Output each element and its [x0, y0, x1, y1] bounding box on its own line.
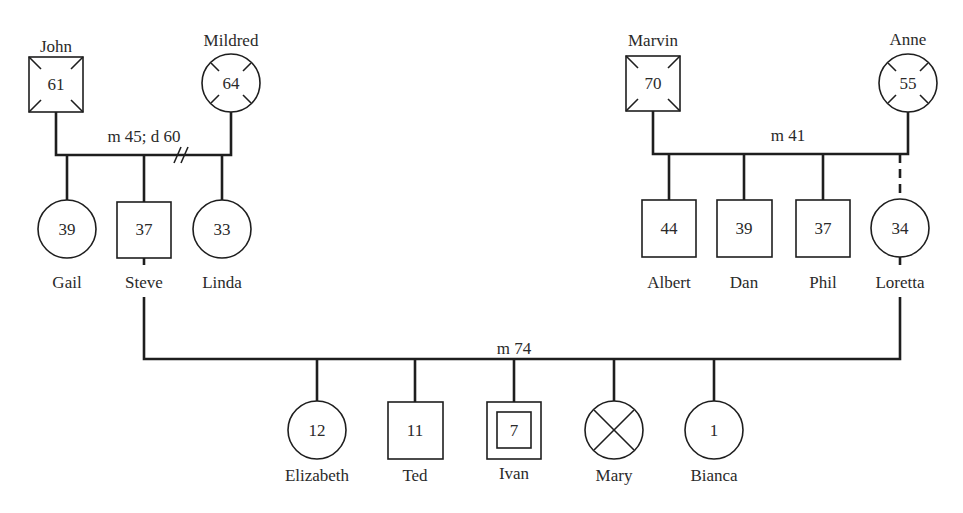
person-name-label: Linda — [202, 273, 242, 292]
marriage-line-steve-loretta: m 74 — [144, 297, 900, 402]
person-name-label: Mary — [596, 466, 633, 485]
person-name-label: Albert — [647, 273, 691, 292]
relationship-label: m 74 — [497, 339, 532, 358]
person-bianca: 1 Bianca — [685, 401, 743, 485]
person-name-label: Marvin — [628, 31, 679, 50]
person-name-label: Steve — [125, 273, 163, 292]
relationship-label: m 41 — [771, 126, 805, 145]
person-albert: 44 Albert — [642, 200, 696, 292]
person-age: 39 — [736, 219, 753, 238]
person-name-label: John — [40, 37, 73, 56]
person-age: 11 — [407, 421, 423, 440]
person-gail: 39 Gail — [38, 200, 96, 292]
person-loretta: 34 Loretta — [871, 199, 929, 292]
person-age: 37 — [136, 220, 154, 239]
person-elizabeth: 12 Elizabeth — [285, 401, 350, 485]
person-age: 7 — [510, 421, 519, 440]
person-age: 34 — [892, 219, 910, 238]
genogram-diagram: John 61 Mildred 64 m 45; d 60 39 Gail — [0, 0, 963, 513]
person-marvin: Marvin 70 — [626, 31, 680, 111]
person-age: 33 — [214, 220, 231, 239]
person-name-label: Loretta — [875, 273, 925, 292]
person-name-label: Ivan — [499, 464, 530, 483]
person-john: John 61 — [29, 37, 83, 112]
person-name-label: Elizabeth — [285, 466, 350, 485]
person-age: 44 — [661, 219, 679, 238]
person-name-label: Gail — [52, 273, 82, 292]
person-age: 1 — [710, 421, 719, 440]
person-name-label: Bianca — [690, 466, 738, 485]
person-age: 70 — [645, 74, 662, 93]
person-name-label: Mildred — [204, 31, 259, 50]
person-dan: 39 Dan — [717, 200, 772, 292]
person-age: 55 — [900, 74, 917, 93]
person-steve: 37 Steve — [117, 202, 171, 292]
person-mildred: Mildred 64 — [202, 31, 260, 112]
person-name-label: Dan — [730, 273, 759, 292]
person-mary: Mary — [585, 401, 643, 485]
marriage-line-john-mildred: m 45; d 60 — [56, 112, 231, 202]
person-name-label: Ted — [402, 466, 428, 485]
marriage-line-marvin-anne: m 41 — [653, 111, 908, 200]
person-ted: 11 Ted — [388, 402, 443, 485]
person-age: 61 — [48, 75, 65, 94]
relationship-label: m 45; d 60 — [107, 127, 180, 146]
person-age: 37 — [815, 219, 833, 238]
person-age: 39 — [59, 220, 76, 239]
person-ivan: 7 Ivan — [487, 402, 541, 483]
person-age: 64 — [223, 74, 241, 93]
person-anne: Anne 55 — [879, 30, 937, 112]
person-name-label: Phil — [809, 273, 837, 292]
person-age: 12 — [309, 421, 326, 440]
person-linda: 33 Linda — [193, 200, 251, 292]
person-phil: 37 Phil — [796, 200, 850, 292]
person-name-label: Anne — [890, 30, 927, 49]
